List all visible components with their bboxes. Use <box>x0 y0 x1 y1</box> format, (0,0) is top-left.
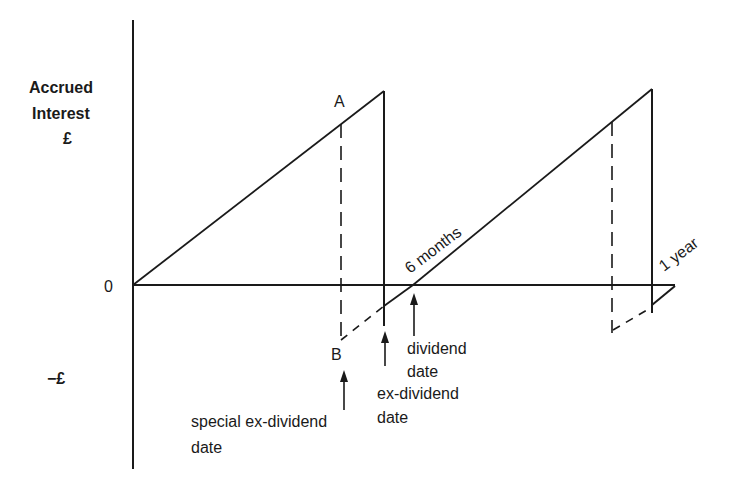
zero-label: 0 <box>104 278 113 295</box>
special-rebate-dashed-line <box>341 306 384 340</box>
rebate-accrual-line-second <box>652 286 675 305</box>
y-axis-label-line2: Interest <box>32 105 90 122</box>
dividend-date-label-line2: date <box>407 363 438 380</box>
ex-dividend-label-line2: date <box>377 409 408 426</box>
special-ex-dividend-arrow <box>340 370 348 410</box>
ex-dividend-label-line1: ex-dividend <box>377 385 459 402</box>
negative-pound-label: −£ <box>47 370 65 387</box>
accrued-interest-diagram: Accrued Interest £ 0 −£ A B 6 months 1 y… <box>0 0 743 492</box>
y-axis-label-line1: Accrued <box>29 79 93 96</box>
dividend-date-arrow <box>410 293 418 336</box>
y-axis-label-line3: £ <box>63 130 72 147</box>
special-ex-dividend-label-line2: date <box>191 439 222 456</box>
accrual-line-first-half <box>133 91 384 285</box>
rebate-accrual-line-first <box>384 285 413 306</box>
point-b-label: B <box>331 346 342 363</box>
one-year-label: 1 year <box>656 234 702 275</box>
accrual-line-second-half <box>413 89 652 285</box>
ex-dividend-arrow <box>381 331 389 366</box>
point-a-label: A <box>334 93 345 110</box>
dividend-date-label-line1: dividend <box>407 340 467 357</box>
special-rebate-dashed-line-second <box>613 307 652 330</box>
special-ex-dividend-label-line1: special ex-dividend <box>191 413 327 430</box>
